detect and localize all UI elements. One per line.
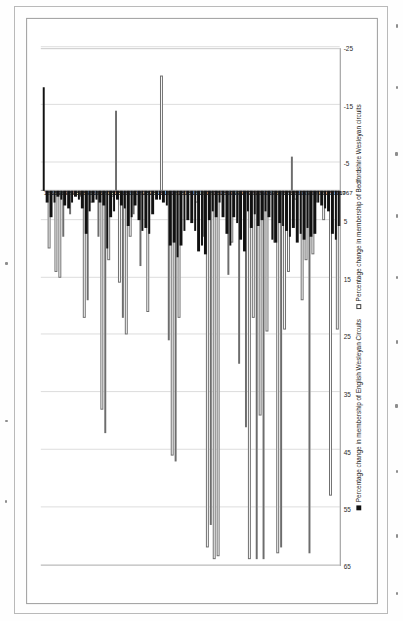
bar-english-1782 (285, 191, 288, 231)
bar-english-1807 (197, 191, 200, 251)
gridline (40, 161, 339, 162)
scan-speckle (396, 340, 398, 344)
x-tick-label-35: 35 (343, 390, 350, 397)
gridline (40, 448, 339, 449)
bar-bedfordshire-1790 (255, 191, 258, 559)
bar-english-1781 (288, 191, 291, 237)
x-tick-label-neg5: -5 (343, 160, 349, 167)
bar-bedfordshire-1830 (114, 110, 117, 191)
bar-bedfordshire-1780 (290, 156, 293, 191)
x-tick-label-25: 25 (343, 333, 350, 340)
scan-speckle (395, 404, 398, 408)
legend-swatch-bedfordshire-icon (355, 304, 360, 309)
bar-bedfordshire-1801 (216, 191, 219, 556)
bar-english-1805 (204, 191, 207, 254)
bar-bedfordshire-1834 (100, 191, 103, 410)
bar-english-1822 (144, 191, 147, 228)
scan-speckle (5, 420, 8, 422)
bar-english-1790 (257, 191, 260, 226)
gridline (40, 46, 339, 47)
bar-bedfordshire-1802 (213, 191, 216, 559)
bar-english-1776 (306, 191, 309, 228)
bar-bedfordshire-1788 (262, 191, 265, 559)
bar-english-1768 (334, 191, 337, 240)
legend-label-english: Percentage change in membership of Engli… (354, 318, 361, 501)
bar-english-1814 (172, 191, 175, 243)
bar-english-1833 (105, 191, 108, 249)
bar-english-1851 (42, 87, 45, 191)
legend-item-english: Percentage change in membership of Engli… (354, 318, 361, 509)
bar-english-1792 (249, 191, 252, 228)
bar-english-1813 (176, 191, 179, 257)
bar-english-1785 (274, 191, 277, 243)
scan-speckle (395, 152, 398, 156)
bar-english-1786 (271, 191, 274, 240)
scan-speckle (396, 592, 398, 595)
category-label-1851: 1851 (43, 189, 57, 196)
x-tick-label-5: 5 (343, 218, 347, 225)
bar-english-1769 (330, 191, 333, 234)
bar-english-1839 (84, 191, 87, 234)
bar-bedfordshire-1828 (121, 191, 124, 318)
bar-bedfordshire-1784 (276, 191, 279, 553)
bar-english-1795 (239, 191, 242, 240)
bar-bedfordshire-1775 (308, 191, 311, 553)
bar-bedfordshire-1803 (209, 191, 212, 525)
scan-speckle (396, 24, 398, 28)
plot-area (40, 48, 339, 566)
bar-english-1783 (281, 191, 284, 226)
bar-english-1799 (225, 191, 228, 234)
x-tick-label-15: 15 (343, 275, 350, 282)
scan-speckle (396, 276, 398, 279)
legend-label-bedfordshire: Percentage change in membership of Bedfo… (354, 104, 361, 301)
bar-english-1808 (193, 191, 196, 231)
bar-english-1778 (299, 191, 302, 234)
bar-english-1775 (309, 191, 312, 237)
bar-english-1806 (200, 191, 203, 246)
gridline (40, 564, 339, 565)
gridline (40, 506, 339, 507)
bar-bedfordshire-1847 (54, 191, 57, 272)
chart-legend: Percentage change in membership of Engli… (351, 48, 365, 566)
x-tick-label-55: 55 (343, 505, 350, 512)
x-axis-line (339, 48, 340, 566)
bar-english-1779 (295, 191, 298, 243)
bar-english-1798 (228, 191, 231, 246)
bar-bedfordshire-1792 (248, 191, 251, 559)
bar-english-1774 (313, 191, 316, 234)
bar-english-1815 (169, 191, 172, 246)
bar-bedfordshire-1783 (280, 191, 283, 548)
scan-speckle (396, 470, 398, 473)
bar-bedfordshire-1846 (58, 191, 61, 277)
rotated-figure: 6555453525155-5-15-25 176717691771177317… (26, 17, 378, 603)
gridline (40, 391, 339, 392)
bar-english-1812 (179, 191, 182, 246)
bar-bedfordshire-1817 (160, 76, 163, 191)
x-tick-label-45: 45 (343, 448, 350, 455)
gridline (40, 333, 339, 334)
gridline (40, 103, 339, 104)
bar-english-1823 (140, 191, 143, 231)
bar-english-1777 (302, 191, 305, 240)
bar-bedfordshire-1769 (329, 191, 332, 496)
bar-english-1811 (183, 191, 186, 231)
scan-speckle (396, 534, 398, 538)
bar-english-1780 (292, 191, 295, 228)
scanned-page: 6555453525155-5-15-25 176717691771177317… (0, 0, 403, 621)
x-tick-label-65: 65 (343, 563, 350, 570)
bar-english-1821 (147, 191, 150, 234)
bar-english-1827 (126, 191, 129, 226)
bar-english-1794 (242, 191, 245, 251)
scan-speckle (5, 500, 7, 503)
scan-speckle (5, 262, 8, 265)
scan-speckle (396, 86, 398, 89)
chart-frame: 6555453525155-5-15-25 176717691771177317… (26, 17, 378, 603)
scan-speckle (396, 214, 398, 218)
legend-swatch-english-icon (355, 505, 360, 510)
legend-item-bedfordshire: Percentage change in membership of Bedfo… (354, 104, 361, 309)
